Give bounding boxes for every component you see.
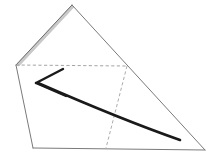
origami-fold-diagram: Origami fold step diagram — [0, 0, 212, 158]
diagram-canvas: Origami fold step diagram — [0, 0, 212, 158]
